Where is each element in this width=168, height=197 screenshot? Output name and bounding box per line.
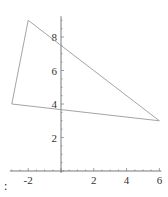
- y-tick-label: 6: [52, 65, 58, 77]
- series-triangle: [12, 20, 160, 121]
- prompt-colon: :: [4, 180, 7, 192]
- x-tick-label: -2: [24, 174, 33, 186]
- axes: [10, 16, 162, 173]
- y-tick-label: 8: [52, 31, 58, 43]
- tick-labels: -22462468: [24, 31, 163, 186]
- triangle-polygon: [12, 20, 160, 121]
- x-tick-label: 2: [91, 174, 97, 186]
- x-tick-label: 6: [157, 174, 163, 186]
- polygon-plot: -22462468: [0, 0, 168, 197]
- axis-ticks: [12, 20, 160, 171]
- y-tick-label: 2: [52, 132, 58, 144]
- x-tick-label: 4: [124, 174, 130, 186]
